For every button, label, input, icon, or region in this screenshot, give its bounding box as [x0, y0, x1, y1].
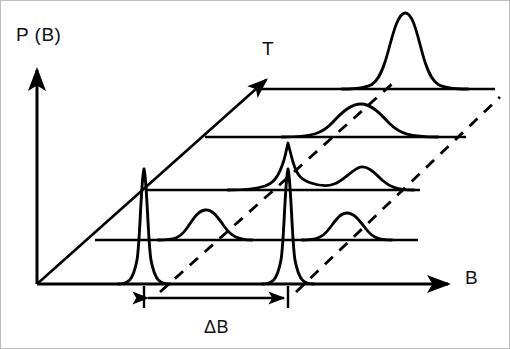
- delta-b-annotation: [144, 286, 288, 308]
- probability-axis-label: P (B): [16, 24, 61, 46]
- temperature-axis-label: T: [262, 38, 274, 60]
- curve-level-top: [342, 13, 468, 89]
- field-axis-label: B: [465, 267, 478, 289]
- curve-bottom-peak-right: [262, 169, 314, 284]
- delta-b-label: ΔB: [204, 317, 229, 338]
- curve-bottom-peak-left: [118, 169, 170, 284]
- waterfall-diagram: P (B) T B ΔB: [0, 0, 510, 349]
- dashed-guide-left-icon: [160, 84, 392, 292]
- image-border: [1, 1, 510, 349]
- guide-lines: [160, 84, 500, 292]
- curve-level-2-left: [158, 210, 252, 240]
- curve-level-3: [228, 143, 414, 190]
- curve-level-4: [282, 104, 438, 137]
- curve-level-2-right: [302, 213, 392, 240]
- diagram-canvas: [0, 0, 510, 349]
